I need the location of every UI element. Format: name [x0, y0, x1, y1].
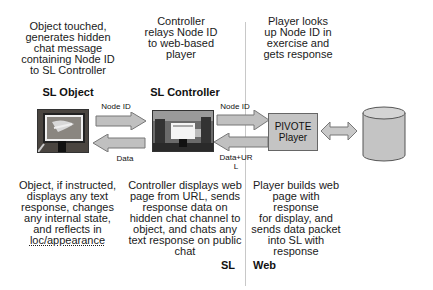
arrow-label-node-id-obj-to-ctrl: Node ID [96, 102, 136, 111]
text-line: response [250, 246, 342, 257]
bidirectional-arrow-icon [320, 121, 358, 141]
left-arrow-icon [213, 133, 269, 151]
text-line: chat [126, 246, 244, 257]
sl-object-title: SL Object [28, 86, 108, 98]
sl-object-bottom-description: Object, if instructed, displays any text… [10, 180, 125, 246]
player-top-description: Player looks up Node ID in exercise and … [258, 16, 338, 60]
sl-object-top-description: Object touched, generates hidden chat me… [18, 21, 118, 76]
arrow-label-data: Data [110, 154, 140, 163]
text-line: loc/appearance [10, 235, 125, 246]
left-arrow-icon [92, 134, 146, 152]
right-arrow-icon [216, 110, 270, 130]
sl-controller-top-description: Controller relays Node ID to web-based p… [136, 16, 226, 60]
right-arrow-icon [95, 112, 147, 130]
text-line: Data+UR [216, 153, 256, 162]
text-line: Player [279, 132, 307, 143]
text-line: page with response [250, 191, 342, 213]
text-line: PIVOTE [275, 121, 312, 132]
region-label-sl: SL [205, 259, 235, 271]
sl-controller-title: SL Controller [140, 86, 230, 98]
region-label-web: Web [253, 259, 293, 271]
sl-object-image [37, 109, 89, 153]
database-icon [362, 106, 406, 162]
text-line: L [216, 162, 256, 171]
text-line: player [136, 49, 226, 60]
player-bottom-description: Player builds web page with response for… [250, 180, 342, 257]
arrow-label-data-url: Data+UR L [216, 153, 256, 171]
pivote-player-box: PIVOTE Player [268, 113, 318, 151]
text-line: gets response [258, 49, 338, 60]
text-line: to SL Controller [18, 65, 118, 76]
sl-controller-bottom-description: Controller displays web page from URL, s… [126, 180, 244, 257]
sl-controller-image [152, 110, 214, 152]
